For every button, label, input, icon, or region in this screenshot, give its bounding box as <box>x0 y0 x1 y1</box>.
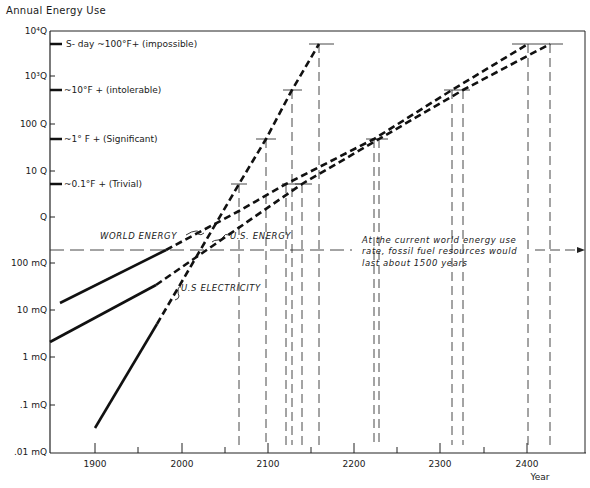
ref-label-sday: S- day ~100°F+ (impossible) <box>66 39 197 49</box>
x-axis-title: Year <box>529 472 549 482</box>
y-axis <box>50 76 55 405</box>
x-tick-label: 2200 <box>343 459 366 469</box>
y-tick-label: Q <box>40 212 47 222</box>
label-us-energy: U.S. ENERGY <box>230 231 291 241</box>
svg-text:rate, fossil fuel resources wo: rate, fossil fuel resources would <box>362 246 517 256</box>
energy-use-chart: Annual Energy Use 10⁴Q 10³Q 100 Q 10 Q Q… <box>0 0 590 488</box>
y-tick-label: 100 mQ <box>11 258 47 268</box>
svg-text:At the current world energy us: At the current world energy use <box>361 235 516 245</box>
y-tick-label: 10³Q <box>25 71 47 81</box>
svg-text:last about 1500 years: last about 1500 years <box>362 258 468 268</box>
chart-title: Annual Energy Use <box>6 5 106 16</box>
label-us-electricity: U.S ELECTRICITY <box>181 283 261 293</box>
x-tick-label: 1900 <box>84 459 107 469</box>
ref-label-01f: ~0.1°F + (Trivial) <box>64 179 142 189</box>
reference-markers <box>50 44 62 184</box>
x-axis <box>95 443 527 453</box>
x-tick-label: 2000 <box>171 459 194 469</box>
y-tick-label: .01 mQ <box>14 447 47 457</box>
x-tick-label: 2300 <box>429 459 452 469</box>
y-tick-label: 10 mQ <box>17 305 47 315</box>
arrow-right-icon <box>577 247 585 253</box>
x-tick-label: 2400 <box>516 459 539 469</box>
reference-labels: S- day ~100°F+ (impossible) ~10°F + (int… <box>64 39 197 189</box>
y-tick-label: 1 mQ <box>23 352 47 362</box>
y-tick-label: 100 Q <box>20 119 47 129</box>
y-tick-labels: 10⁴Q 10³Q 100 Q 10 Q Q 100 mQ 10 mQ 1 mQ… <box>11 26 47 457</box>
y-tick-label: 10⁴Q <box>25 26 47 36</box>
series-labels: WORLD ENERGY U.S. ENERGY U.S ELECTRICITY <box>100 231 291 300</box>
ref-label-1f: ~1° F + (Significant) <box>64 134 158 144</box>
x-tick-labels: 1900 2000 2100 2200 2300 2400 <box>84 459 539 469</box>
label-world-energy: WORLD ENERGY <box>100 231 177 241</box>
y-tick-label: .1 mQ <box>20 400 47 410</box>
current-use-note: At the current world energy use rate, fo… <box>361 235 517 268</box>
x-tick-label: 2100 <box>257 459 280 469</box>
y-tick-label: 10 Q <box>26 166 47 176</box>
ref-label-10f: ~10°F + (intolerable) <box>64 85 161 95</box>
level-crossing-marks <box>231 44 563 184</box>
